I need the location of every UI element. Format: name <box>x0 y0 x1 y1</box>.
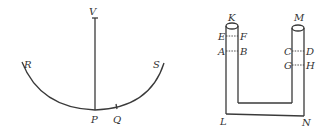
left-tube-opening <box>226 23 238 29</box>
pendulum-figure: V R S P Q <box>22 6 164 125</box>
label-E: E <box>217 31 226 42</box>
tick-Q <box>116 104 117 109</box>
arc-RPS <box>22 62 164 110</box>
label-K: K <box>227 12 236 23</box>
label-R: R <box>23 59 32 70</box>
label-M: M <box>293 12 305 23</box>
label-F: F <box>239 31 248 42</box>
right-tube-opening <box>292 25 304 31</box>
label-P: P <box>90 114 98 125</box>
label-L: L <box>219 116 227 127</box>
u-tube-figure: K M E F A B C D G H L N <box>217 12 315 128</box>
label-V: V <box>89 6 98 17</box>
label-B: B <box>239 46 247 57</box>
label-D: D <box>305 46 314 57</box>
label-C: C <box>284 46 292 57</box>
label-Q: Q <box>113 114 121 125</box>
diagram-canvas: V R S P Q K M E F A B C D G H L N <box>0 0 331 134</box>
bottom-outer <box>226 114 304 116</box>
label-S: S <box>153 59 160 70</box>
label-G: G <box>284 60 292 71</box>
label-A: A <box>217 46 225 57</box>
label-H: H <box>305 60 315 71</box>
label-N: N <box>301 117 312 128</box>
